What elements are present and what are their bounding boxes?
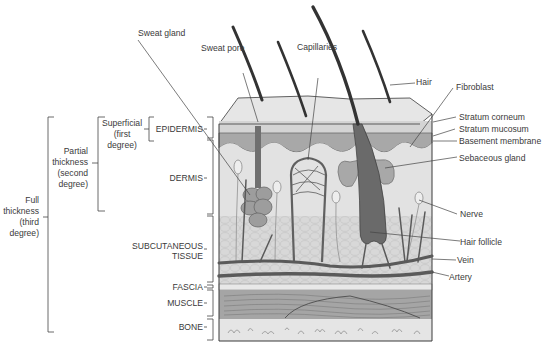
sweat-gland-label: Sweat gland <box>138 28 186 38</box>
superficial-line-1: Superficial <box>102 118 142 128</box>
superficial-label: Superficial (first degree) <box>102 118 142 150</box>
layer-scale <box>207 117 213 340</box>
subcutaneous-label-line-1: SUBCUTANEOUS <box>132 241 203 251</box>
layer-labels: EPIDERMIS DERMIS SUBCUTANEOUS TISSUE FAS… <box>132 124 203 332</box>
full-thickness-bracket <box>43 117 54 332</box>
sebaceous-gland-label: Sebaceous gland <box>459 153 526 163</box>
capillaries-label: Capillaries <box>297 42 337 52</box>
skin-diagram: Full thickness (third degree) Partial th… <box>0 0 546 345</box>
superficial-line-2: (first <box>114 129 131 139</box>
partial-thickness-line-2: thickness <box>52 157 88 167</box>
full-thickness-line-3: (third <box>19 217 39 227</box>
superficial-line-3: degree) <box>107 140 137 150</box>
partial-thickness-label: Partial thickness (second degree) <box>52 146 88 189</box>
bone-label: BONE <box>179 322 204 332</box>
stratum-corneum-label: Stratum corneum <box>459 112 525 122</box>
muscle-label: MUSCLE <box>167 298 203 308</box>
subcutaneous-label-line-2: TISSUE <box>172 251 203 261</box>
partial-thickness-bracket <box>92 117 105 211</box>
sweat-duct <box>255 126 261 188</box>
full-thickness-line-2: thickness <box>3 206 39 216</box>
dermis-label: DERMIS <box>170 173 204 183</box>
artery-label: Artery <box>449 272 473 282</box>
skin-surface <box>219 96 432 124</box>
full-thickness-label: Full thickness (third degree) <box>3 195 39 238</box>
partial-thickness-line-1: Partial <box>64 146 88 156</box>
nerve-label: Nerve <box>460 209 483 219</box>
partial-thickness-line-4: degree) <box>58 179 88 189</box>
skin-block <box>219 7 432 341</box>
stratum-mucosum-label: Stratum mucosum <box>459 124 529 134</box>
full-thickness-line-1: Full <box>25 195 39 205</box>
vein-label: Vein <box>457 255 474 265</box>
stratum-corneum-layer <box>219 121 432 133</box>
fibroblast-label: Fibroblast <box>456 82 494 92</box>
partial-thickness-line-3: (second <box>57 168 88 178</box>
sweat-pore-label: Sweat pore <box>201 43 245 53</box>
fascia-layer <box>219 284 432 290</box>
epidermis-label: EPIDERMIS <box>156 124 204 134</box>
full-thickness-line-4: degree) <box>9 228 39 238</box>
superficial-bracket <box>144 117 154 141</box>
basement-membrane-label: Basement membrane <box>459 136 541 146</box>
fascia-label: FASCIA <box>172 282 203 292</box>
hair-label: Hair <box>416 77 432 87</box>
hair-follicle-label: Hair follicle <box>460 237 502 247</box>
